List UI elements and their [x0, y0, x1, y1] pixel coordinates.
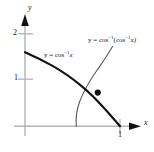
arccos-of-arccos-curve-label: y = cos−1(cos−1x) [88, 37, 136, 44]
intersection-point [95, 90, 101, 96]
y-axis-label: y [28, 4, 32, 12]
composite-label-suffix: x) [131, 36, 136, 44]
y-axis-arrow-icon [21, 14, 29, 26]
y-tick-label-2: 2 [13, 29, 17, 37]
composite-label-mid: (cos [114, 36, 126, 44]
x-axis-arrow-icon [129, 122, 141, 130]
arccos-label-suffix: x [70, 51, 73, 59]
x-axis-label: x [144, 119, 148, 127]
arccos-curve-label: y = cos−1x [44, 52, 73, 59]
x-tick-label-1: 1 [118, 131, 122, 139]
graph-canvas [0, 0, 154, 152]
composite-label-prefix: y = cos [88, 36, 108, 44]
y-tick-label-1: 1 [14, 74, 18, 82]
inverse-cosine-graph-figure: y x 2 1 1 y = cos−1x y = cos−1(cos−1x) [0, 0, 154, 152]
arccos-label-prefix: y = cos [44, 51, 64, 59]
arccos-curve [25, 52, 120, 126]
